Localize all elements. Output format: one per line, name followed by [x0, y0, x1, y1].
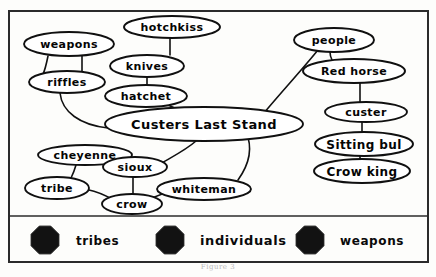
node-layer: weaponshotchkissknivesriffleshatchetCust…: [24, 16, 413, 214]
node-shape-tribe: [25, 177, 89, 199]
node-shape-hatchet: [105, 85, 187, 107]
node-crowking[interactable]: Crow king: [314, 159, 410, 183]
legend-marker-individuals-icon: [156, 226, 184, 254]
node-shape-clstand: [105, 107, 303, 141]
legend-label-tribes: tribes: [76, 234, 119, 248]
node-shape-weapons: [24, 32, 114, 56]
node-shape-sioux: [103, 157, 167, 177]
node-sioux[interactable]: sioux: [103, 157, 167, 177]
node-shape-redhorse: [303, 59, 405, 83]
legend-item-individuals[interactable]: individuals: [156, 226, 286, 254]
concept-map-canvas: weaponshotchkissknivesriffleshatchetCust…: [0, 0, 436, 277]
node-knives[interactable]: knives: [110, 55, 184, 77]
node-sittingbul[interactable]: Sitting bul: [315, 132, 413, 156]
figure-root: weaponshotchkissknivesriffleshatchetCust…: [0, 0, 436, 277]
figure-caption: Figure 3: [0, 263, 436, 271]
edge-custers-last-stand-people: [264, 50, 318, 113]
node-hotchkiss[interactable]: hotchkiss: [124, 16, 220, 38]
legend-marker-weapons-icon: [296, 226, 324, 254]
node-shape-riffles: [29, 71, 105, 93]
node-weapons[interactable]: weapons: [24, 32, 114, 56]
node-crow[interactable]: crow: [102, 194, 162, 214]
node-shape-custer: [325, 102, 407, 122]
edge-custers-last-stand-sioux: [160, 141, 196, 164]
node-shape-crow: [102, 194, 162, 214]
node-tribe[interactable]: tribe: [25, 177, 89, 199]
legend: tribesindividualsweapons: [31, 226, 404, 254]
legend-label-individuals: individuals: [200, 233, 287, 248]
legend-item-weapons[interactable]: weapons: [296, 226, 404, 254]
edge-riffles-custers-last-stand: [60, 93, 108, 128]
node-custer[interactable]: custer: [325, 102, 407, 122]
legend-item-tribes[interactable]: tribes: [31, 226, 119, 254]
edge-cheyenne-tribe: [71, 165, 76, 178]
node-shape-knives: [110, 55, 184, 77]
node-shape-whiteman: [157, 178, 251, 200]
node-clstand[interactable]: Custers Last Stand: [105, 107, 303, 141]
node-people[interactable]: people: [294, 28, 374, 52]
node-whiteman[interactable]: whiteman: [157, 178, 251, 200]
node-shape-people: [294, 28, 374, 52]
node-shape-hotchkiss: [124, 16, 220, 38]
node-shape-crowking: [314, 159, 410, 183]
edge-weapons-riffles-left: [43, 56, 48, 74]
node-hatchet[interactable]: hatchet: [105, 85, 187, 107]
node-riffles[interactable]: riffles: [29, 71, 105, 93]
legend-label-weapons: weapons: [340, 234, 404, 248]
legend-marker-tribes-icon: [31, 226, 59, 254]
node-redhorse[interactable]: Red horse: [303, 59, 405, 83]
node-shape-sittingbul: [315, 132, 413, 156]
edge-people-red-horse: [330, 52, 332, 60]
